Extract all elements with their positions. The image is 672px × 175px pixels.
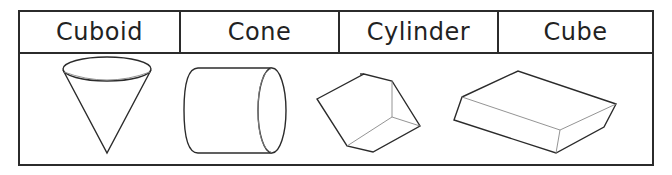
cone-shape-icon (63, 57, 151, 153)
cube-shape-icon (317, 74, 420, 152)
header-cuboid: Cuboid (20, 12, 179, 52)
shape-matching-table: Cuboid Cone Cylinder Cube (18, 10, 654, 166)
header-cube: Cube (497, 12, 652, 52)
shapes-row (20, 54, 652, 164)
cylinder-shape-icon (184, 68, 286, 153)
cuboid-shape-icon (454, 71, 616, 153)
header-row: Cuboid Cone Cylinder Cube (20, 12, 652, 54)
header-cone: Cone (179, 12, 338, 52)
header-cylinder: Cylinder (338, 12, 497, 52)
